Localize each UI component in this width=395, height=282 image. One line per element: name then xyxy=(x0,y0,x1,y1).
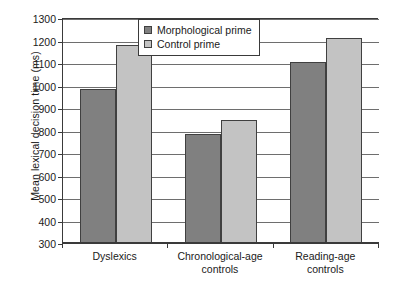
y-axis-tick-label: 600 xyxy=(38,171,56,182)
y-axis-tick xyxy=(58,199,63,200)
bar-morphological-prime xyxy=(290,62,326,243)
legend-item: Control prime xyxy=(144,37,252,51)
x-axis-category-label-line: controls xyxy=(167,263,272,276)
y-axis-tick-label: 500 xyxy=(38,194,56,205)
legend-swatch-icon xyxy=(144,40,152,48)
y-axis-tick-label: 900 xyxy=(38,104,56,115)
x-axis-category-label: Chronological-agecontrols xyxy=(167,250,272,275)
x-axis-category-label: Dyslexics xyxy=(62,250,167,263)
legend-swatch-icon xyxy=(144,26,152,34)
legend-item: Morphological prime xyxy=(144,23,252,37)
bar-chart-figure: Mean lexical decision time (ms) 30040050… xyxy=(0,0,395,282)
y-axis-tick-label: 1000 xyxy=(33,81,56,92)
x-axis-category-label-line: Chronological-age xyxy=(167,250,272,263)
bar-control-prime xyxy=(326,38,362,243)
y-axis-tick xyxy=(58,87,63,88)
y-axis-tick-label: 1300 xyxy=(33,14,56,25)
y-axis-tick xyxy=(58,109,63,110)
chart-legend: Morphological primeControl prime xyxy=(138,19,260,56)
y-axis-tick xyxy=(58,177,63,178)
x-axis-category-label-line: controls xyxy=(273,263,378,276)
x-axis-category-label: Reading-agecontrols xyxy=(273,250,378,275)
x-axis-tick xyxy=(167,242,168,248)
y-axis-tick xyxy=(58,132,63,133)
bar-control-prime xyxy=(116,45,152,243)
y-axis-tick-label: 300 xyxy=(38,239,56,250)
y-axis-tick xyxy=(58,19,63,20)
y-axis-tick xyxy=(58,154,63,155)
bar-morphological-prime xyxy=(185,134,221,243)
legend-label: Morphological prime xyxy=(157,24,252,36)
bar-control-prime xyxy=(221,120,257,243)
y-axis-tick-label: 1100 xyxy=(33,59,56,70)
x-axis-line xyxy=(62,242,379,244)
y-axis-tick-label: 800 xyxy=(38,126,56,137)
x-axis-category-label-line: Reading-age xyxy=(273,250,378,263)
y-axis-tick-label: 1200 xyxy=(33,36,56,47)
y-axis-tick xyxy=(58,222,63,223)
y-axis-tick-label: 700 xyxy=(38,149,56,160)
x-axis-category-label-line: Dyslexics xyxy=(62,250,167,263)
y-axis-tick-label: 400 xyxy=(38,216,56,227)
x-axis-tick xyxy=(273,242,274,248)
y-axis-tick xyxy=(58,64,63,65)
bar-morphological-prime xyxy=(80,89,116,243)
x-axis-tick xyxy=(378,242,379,248)
y-axis-tick xyxy=(58,42,63,43)
x-axis-tick xyxy=(62,242,63,248)
legend-label: Control prime xyxy=(157,38,220,50)
